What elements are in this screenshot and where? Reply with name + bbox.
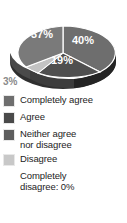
legend-item-label: Disagree bbox=[20, 153, 57, 164]
legend-item-label: Completely agree bbox=[20, 94, 93, 105]
pie-label-neither: 19% bbox=[51, 54, 73, 66]
legend-swatch-icon bbox=[3, 95, 15, 107]
pie-chart-figure: 40% 37% 19% 3% Completely agree Agree Ne… bbox=[0, 0, 127, 223]
legend-item-agree[interactable]: Agree bbox=[0, 111, 127, 125]
legend-swatch-icon bbox=[3, 129, 15, 141]
pie-label-completely-agree: 40% bbox=[72, 34, 94, 46]
legend-item-completely-agree[interactable]: Completely agree bbox=[0, 94, 127, 108]
pie-chart-plot: 40% 37% 19% 3% bbox=[0, 0, 127, 96]
legend-item-label: Neither agree nor disagree bbox=[20, 128, 76, 150]
pie-label-agree: 37% bbox=[31, 28, 53, 40]
legend-item-completely-disagree[interactable]: Completely disagree: 0% bbox=[0, 170, 127, 192]
legend-item-disagree[interactable]: Disagree bbox=[0, 153, 127, 167]
pie-label-disagree: 3% bbox=[3, 76, 18, 87]
chart-legend: Completely agree Agree Neither agree nor… bbox=[0, 94, 127, 223]
pie-chart-svg: 40% 37% 19% 3% bbox=[0, 0, 127, 96]
legend-item-label: Agree bbox=[20, 111, 45, 122]
legend-item-neither-agree-nor-disagree[interactable]: Neither agree nor disagree bbox=[0, 128, 127, 150]
legend-swatch-icon bbox=[3, 154, 15, 166]
legend-item-label: Completely disagree: 0% bbox=[20, 170, 74, 192]
legend-swatch-icon bbox=[3, 112, 15, 124]
